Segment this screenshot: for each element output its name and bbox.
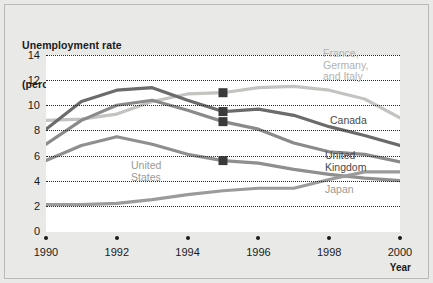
- x-axis-tick-label-1996: 1996: [238, 246, 278, 258]
- series-label-line: United: [131, 160, 161, 172]
- gridline-y-8: [46, 130, 400, 131]
- y-axis-tick-label-4: 4: [14, 175, 40, 187]
- series-label-line: and Italy: [323, 71, 368, 83]
- series-label-france-germany-and-italy: France,Germany,and Italy: [323, 48, 368, 83]
- series-label-canada: Canada: [330, 115, 367, 127]
- x-axis-title: Year: [390, 262, 411, 273]
- y-axis-tick-label-8: 8: [14, 124, 40, 136]
- series-label-line: States: [131, 172, 161, 184]
- series-label-line: France,: [323, 48, 368, 60]
- x-axis-tick-label-1990: 1990: [26, 246, 66, 258]
- gridline-y-2: [46, 206, 400, 207]
- series-label-united-states: UnitedStates: [131, 160, 161, 183]
- data-point-marker: [219, 88, 228, 97]
- gridline-y-0: [46, 231, 400, 232]
- x-axis-tick-1992: [115, 236, 119, 240]
- series-label-line: Japan: [325, 184, 354, 196]
- gridline-y-10: [46, 105, 400, 106]
- series-label-united-kingdom: UnitedKingdom: [325, 150, 366, 173]
- y-axis-tick-label-14: 14: [14, 49, 40, 61]
- y-axis-tick-label-2: 2: [14, 200, 40, 212]
- x-axis-tick-label-1998: 1998: [309, 246, 349, 258]
- data-point-marker: [219, 117, 228, 126]
- x-axis-tick-1996: [256, 236, 260, 240]
- y-axis-tick-label-6: 6: [14, 150, 40, 162]
- y-axis-tick-label-0: 0: [14, 225, 40, 237]
- x-axis-tick-1990: [44, 236, 48, 240]
- series-label-line: Kingdom: [325, 162, 366, 174]
- y-axis-tick-label-10: 10: [14, 99, 40, 111]
- x-axis-tick-label-1994: 1994: [168, 246, 208, 258]
- chart-title-line-1: Unemployment rate: [22, 39, 164, 52]
- gridline-y-4: [46, 181, 400, 182]
- series-label-japan: Japan: [325, 184, 354, 196]
- data-point-marker: [219, 156, 228, 165]
- x-axis-tick-2000: [398, 236, 402, 240]
- x-axis-tick-label-2000: 2000: [380, 246, 420, 258]
- series-label-line: United: [325, 150, 366, 162]
- series-label-line: Canada: [330, 115, 367, 127]
- x-axis-tick-1994: [186, 236, 190, 240]
- y-axis-tick-label-12: 12: [14, 74, 40, 86]
- data-point-marker: [219, 107, 228, 116]
- x-axis-tick-1998: [327, 236, 331, 240]
- x-axis-tick-label-1992: 1992: [97, 246, 137, 258]
- chart-screenshot: Unemployment rate (percentage of labour …: [0, 0, 433, 283]
